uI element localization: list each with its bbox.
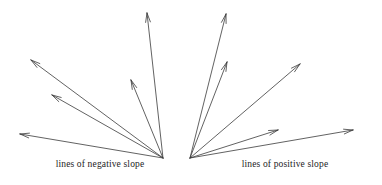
- positive-slope-fan: [190, 14, 353, 158]
- caption-lines-of-positive-slope: lines of positive slope: [192, 160, 378, 170]
- caption-lines-of-negative-slope: lines of negative slope: [0, 160, 200, 170]
- ray-arrow: [190, 14, 226, 158]
- ray-shaft: [190, 64, 300, 158]
- ray-arrow: [190, 64, 300, 158]
- ray-shaft: [190, 14, 226, 158]
- slope-illustration-figure: lines of negative slope lines of positiv…: [0, 0, 382, 185]
- arrowhead-barb: [344, 129, 353, 130]
- arrowhead-barb: [20, 133, 29, 134]
- arrowhead-barb: [269, 130, 278, 131]
- ray-diagram-canvas: [0, 0, 382, 185]
- ray-arrow: [190, 129, 353, 158]
- ray-arrow: [190, 130, 278, 158]
- ray-shaft: [190, 62, 227, 158]
- negative-slope-fan: [20, 13, 163, 158]
- ray-arrow: [190, 62, 227, 158]
- ray-shaft: [147, 13, 163, 158]
- arrowhead-barb: [146, 13, 147, 22]
- ray-shaft: [190, 130, 278, 158]
